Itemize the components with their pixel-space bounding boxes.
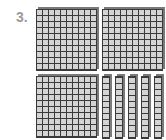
hundred-flat-2 <box>102 9 163 71</box>
problem-number: 3. <box>16 9 28 25</box>
ten-rod-3 <box>128 76 136 139</box>
hundred-flat-3 <box>36 76 97 138</box>
ten-rod-5 <box>154 76 162 139</box>
ten-rod-1 <box>102 76 110 139</box>
ten-rod-2 <box>115 76 123 139</box>
ten-rod-4 <box>141 76 149 139</box>
hundred-flat-1 <box>36 9 97 71</box>
